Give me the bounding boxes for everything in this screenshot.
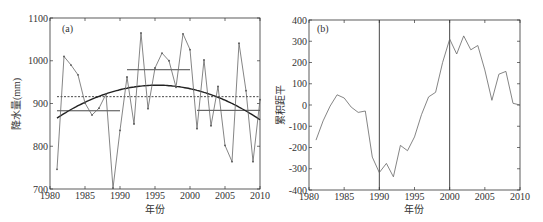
- data-point-marker: [119, 130, 121, 132]
- data-point-marker: [98, 107, 100, 109]
- data-point-marker: [140, 32, 142, 34]
- panel-a-series: [56, 32, 261, 189]
- x-tick-label: 2005: [475, 191, 495, 202]
- y-tick-label: -300: [289, 163, 307, 174]
- x-tick-label: 2010: [510, 191, 530, 202]
- data-point-marker: [105, 93, 107, 95]
- trend-curve: [57, 85, 260, 120]
- data-point-marker: [196, 128, 198, 130]
- data-point-marker: [252, 161, 254, 163]
- y-tick-label: 0: [302, 100, 307, 111]
- y-tick-label: -100: [289, 121, 307, 132]
- data-point-marker: [217, 86, 219, 88]
- data-series-line: [316, 36, 520, 177]
- y-tick-label: 200: [292, 57, 307, 68]
- panel-b-label: (b): [317, 23, 329, 35]
- panel-a-precipitation: 1980198519901995200020052010 70080090010…: [10, 13, 270, 216]
- panel-a-y-axis-label: 降水量(mm): [10, 78, 23, 130]
- data-point-marker: [154, 67, 156, 69]
- data-point-marker: [63, 56, 65, 58]
- x-tick-label: 2000: [180, 190, 200, 201]
- x-tick-label: 2010: [250, 190, 270, 201]
- data-point-marker: [112, 187, 114, 189]
- y-tick-label: -400: [289, 185, 307, 196]
- y-tick-label: 400: [292, 15, 307, 26]
- panel-b-cumulative-anomaly: 1980198519901995200020052010 -400-300-20…: [275, 15, 530, 216]
- y-tick-label: 900: [33, 98, 48, 109]
- panel-b-x-axis-label: 年份: [404, 203, 424, 215]
- data-point-marker: [210, 125, 212, 127]
- data-point-marker: [70, 64, 72, 66]
- data-point-marker: [175, 86, 177, 88]
- panel-a-y-ticks: 70080090010001100: [28, 13, 260, 195]
- panel-a-label: (a): [62, 23, 73, 35]
- data-point-marker: [224, 144, 226, 146]
- y-tick-label: 300: [292, 36, 307, 47]
- data-point-marker: [231, 161, 233, 163]
- x-tick-label: 1995: [405, 191, 425, 202]
- data-point-marker: [77, 74, 79, 76]
- data-point-marker: [126, 76, 128, 78]
- panel-b-y-ticks: -400-300-200-1000100200300400: [289, 15, 520, 196]
- x-tick-label: 1985: [334, 191, 354, 202]
- y-tick-label: 1000: [28, 55, 48, 66]
- data-point-marker: [84, 102, 86, 104]
- y-tick-label: 100: [292, 78, 307, 89]
- panel-a-x-axis-label: 年份: [145, 203, 165, 215]
- data-point-marker: [56, 168, 58, 170]
- data-point-marker: [259, 99, 261, 101]
- panel-b-y-axis-label: 累积距平: [275, 85, 286, 125]
- y-tick-label: 800: [33, 141, 48, 152]
- y-tick-label: 700: [33, 184, 48, 195]
- data-point-marker: [147, 108, 149, 110]
- data-point-marker: [203, 59, 205, 61]
- panel-b-series: [316, 20, 520, 190]
- x-tick-label: 2005: [215, 190, 235, 201]
- data-point-marker: [161, 52, 163, 54]
- panel-a-x-ticks: 1980198519901995200020052010: [40, 18, 270, 201]
- x-tick-label: 1985: [75, 190, 95, 201]
- y-tick-label: -200: [289, 142, 307, 153]
- x-tick-label: 1990: [110, 190, 130, 201]
- data-point-marker: [245, 90, 247, 92]
- y-tick-label: 1100: [28, 13, 48, 24]
- x-tick-label: 1995: [145, 190, 165, 201]
- data-point-marker: [189, 49, 191, 51]
- panel-b-plot-frame: [309, 20, 520, 190]
- data-point-marker: [168, 60, 170, 62]
- panel-b-x-ticks: 1980198519901995200020052010: [299, 20, 530, 202]
- figure: 1980198519901995200020052010 70080090010…: [0, 0, 543, 222]
- data-point-marker: [133, 123, 135, 125]
- x-tick-label: 2000: [440, 191, 460, 202]
- data-point-marker: [182, 33, 184, 35]
- data-point-marker: [238, 42, 240, 44]
- data-point-marker: [91, 114, 93, 116]
- x-tick-label: 1990: [369, 191, 389, 202]
